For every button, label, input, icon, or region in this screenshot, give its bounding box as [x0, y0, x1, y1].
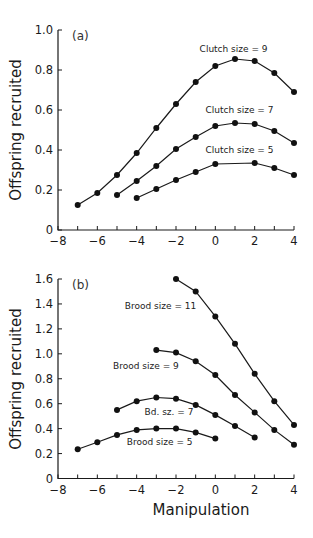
x-tick-label: −8: [50, 483, 67, 497]
data-point: [173, 146, 179, 152]
panel-label: (a): [72, 29, 89, 43]
series-annotation: Brood size = 5: [127, 437, 193, 447]
data-point: [232, 392, 238, 398]
data-point: [193, 429, 199, 435]
data-point: [114, 432, 120, 438]
series-line: [78, 59, 294, 205]
y-tick-label: 1.0: [35, 347, 53, 361]
data-point: [193, 169, 199, 175]
x-tick-label: 0: [212, 234, 219, 248]
data-point: [173, 101, 179, 107]
data-point: [134, 195, 140, 201]
data-point: [75, 202, 81, 208]
data-point: [193, 402, 199, 408]
y-tick-label: 0.4: [35, 143, 53, 157]
y-tick-label: 1.0: [35, 23, 53, 37]
data-point: [232, 423, 238, 429]
y-tick-label: 0.8: [35, 63, 53, 77]
panel-a: 00.20.40.60.81.0−8−6−4−2024Offspring rec…: [7, 23, 298, 248]
data-point: [271, 70, 277, 76]
series: Brood size = 5: [75, 426, 219, 453]
data-point: [232, 120, 238, 126]
x-tick-label: −4: [128, 483, 145, 497]
data-point: [114, 192, 120, 198]
data-point: [114, 407, 120, 413]
data-point: [212, 63, 218, 69]
y-tick-label: 0.8: [35, 372, 53, 386]
x-tick-label: −8: [50, 234, 67, 248]
data-point: [173, 177, 179, 183]
data-point: [212, 372, 218, 378]
data-point: [193, 289, 199, 295]
data-point: [291, 442, 297, 448]
data-point: [271, 398, 277, 404]
data-point: [252, 409, 258, 415]
data-point: [173, 350, 179, 356]
series: Clutch size = 5: [134, 145, 297, 201]
data-point: [252, 58, 258, 64]
data-point: [291, 89, 297, 95]
y-tick-label: 0.2: [35, 183, 53, 197]
series-annotation: Clutch size = 7: [206, 105, 274, 115]
data-point: [252, 371, 258, 377]
y-axis-label: Offspring recruited: [7, 59, 25, 200]
panel-b: 00.20.40.60.81.01.21.41.6−8−6−4−2024Offs…: [7, 272, 298, 519]
data-point: [252, 121, 258, 127]
data-point: [291, 172, 297, 178]
data-point: [291, 140, 297, 146]
data-point: [271, 165, 277, 171]
x-tick-label: −4: [128, 234, 145, 248]
data-point: [173, 426, 179, 432]
data-point: [212, 436, 218, 442]
x-axis-label: Manipulation: [153, 501, 250, 519]
axes: [58, 30, 294, 230]
data-point: [193, 134, 199, 140]
figure: 00.20.40.60.81.0−8−6−4−2024Offspring rec…: [0, 0, 313, 538]
data-point: [291, 422, 297, 428]
x-tick-label: −6: [89, 483, 106, 497]
x-tick-label: −2: [168, 483, 185, 497]
data-point: [252, 434, 258, 440]
series-annotation: Clutch size = 9: [200, 44, 268, 54]
y-tick-label: 0.6: [35, 397, 53, 411]
x-tick-label: 0: [212, 483, 219, 497]
data-point: [193, 79, 199, 85]
data-point: [134, 398, 140, 404]
data-point: [114, 172, 120, 178]
data-point: [212, 313, 218, 319]
series: Clutch size = 9: [75, 44, 297, 208]
y-tick-label: 1.6: [35, 272, 53, 286]
chart-canvas: 00.20.40.60.81.0−8−6−4−2024Offspring rec…: [0, 0, 313, 538]
series-annotation: Brood size = 9: [113, 361, 179, 371]
data-point: [153, 347, 159, 353]
series-line: [117, 123, 294, 195]
data-point: [94, 439, 100, 445]
x-tick-label: 2: [251, 234, 258, 248]
x-tick-label: −6: [89, 234, 106, 248]
series-annotation: Bd. sz. = 7: [145, 407, 194, 417]
data-point: [153, 163, 159, 169]
panel-label: (b): [72, 278, 89, 292]
series-annotation: Clutch size = 5: [206, 145, 274, 155]
series: Brood size = 11: [125, 276, 297, 428]
data-point: [75, 446, 81, 452]
x-tick-label: 4: [290, 483, 297, 497]
data-point: [212, 123, 218, 129]
data-point: [94, 190, 100, 196]
data-point: [153, 186, 159, 192]
series: Bd. sz. = 7: [114, 395, 258, 441]
data-point: [232, 341, 238, 347]
data-point: [134, 150, 140, 156]
y-axis-label: Offspring recruited: [7, 308, 25, 449]
data-point: [173, 276, 179, 282]
series-annotation: Brood size = 11: [125, 301, 196, 311]
y-tick-label: 1.2: [35, 322, 53, 336]
data-point: [153, 426, 159, 432]
y-tick-label: 0.6: [35, 103, 53, 117]
x-tick-label: 4: [290, 234, 297, 248]
data-point: [232, 56, 238, 62]
data-point: [271, 128, 277, 134]
data-point: [134, 178, 140, 184]
y-tick-label: 0.4: [35, 422, 53, 436]
data-point: [153, 125, 159, 131]
